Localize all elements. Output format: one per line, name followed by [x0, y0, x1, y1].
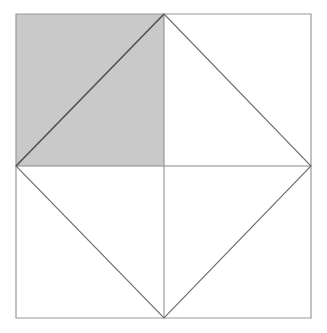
geometry-figure-canvas	[0, 0, 327, 333]
geometry-figure-svg	[0, 0, 327, 333]
